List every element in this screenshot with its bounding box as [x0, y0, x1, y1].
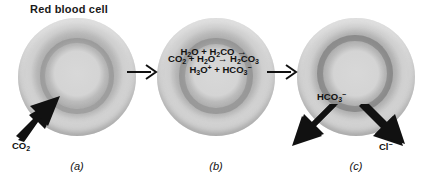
bicarbonate-efflux-arrow	[292, 104, 340, 150]
flow-arrow-b-to-c	[266, 62, 300, 82]
equation-b-product1: H3O+	[189, 64, 211, 75]
equation-panel-b: H2O + H2CO → H3O+ + HCO3−	[0, 45, 427, 79]
equation-b-product2: HCO3−	[222, 64, 251, 75]
equation-b-line2: H3O+ + HCO3−	[0, 61, 427, 79]
equation-b-reactant1: H2O	[180, 46, 198, 57]
equation-b-plus2: +	[214, 64, 220, 75]
figure-title: Red blood cell	[30, 3, 108, 15]
co2-label: CO2	[12, 140, 30, 152]
panel-caption-a: (a)	[18, 160, 136, 172]
panel-caption-c: (c)	[297, 160, 415, 172]
equation-b-reactant2: H2CO	[209, 46, 234, 57]
bicarbonate-label: HCO3−	[317, 91, 346, 103]
equation-b-arrow: →	[237, 46, 247, 57]
co2-influx-arrow	[14, 96, 66, 142]
red-blood-cell-co2-transport-figure: Red blood cell CO2 + H2O → H2CO3 CO2 (a)	[0, 0, 427, 190]
equation-b-line1: H2O + H2CO →	[0, 45, 427, 61]
equation-b-plus1: +	[201, 46, 207, 57]
chloride-label: Cl−	[379, 141, 393, 152]
panel-caption-b: (b)	[157, 160, 275, 172]
flow-arrow-a-to-b	[126, 62, 160, 82]
